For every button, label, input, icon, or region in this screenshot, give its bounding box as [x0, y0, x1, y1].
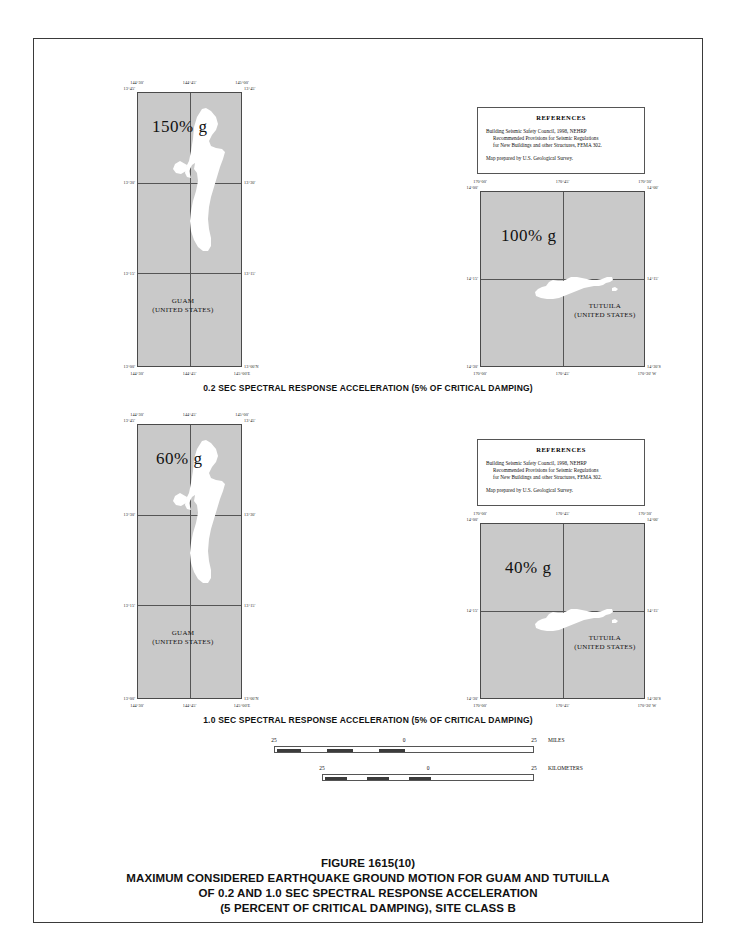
tick-top-right: 145°00' — [226, 80, 258, 85]
tick-right-14-00: 14°00' — [647, 517, 658, 522]
references-line-3: for New Buildings and other Structures, … — [486, 474, 636, 481]
scale-km-left-number: 25 — [312, 765, 332, 771]
scale-segment — [409, 777, 431, 780]
tick-right-13-45: 13°45' — [244, 86, 255, 91]
tick-bottom-center: 144°45' — [174, 703, 206, 708]
scale-section: Scale 1:1,000,000 25 0 25 MILES 25 0 25 … — [34, 746, 702, 762]
tick-right-14-30: 14°30'S — [647, 364, 661, 369]
tick-right-13-30: 13°30' — [244, 180, 255, 185]
scale-miles-right-number: 25 — [524, 737, 544, 743]
references-line-1: Building Seismic Safety Council, 1998, N… — [486, 128, 636, 135]
tick-left-13-00: 13°00' — [103, 696, 135, 701]
acceleration-value-tutuila-1-0: 40% g — [505, 558, 551, 578]
scale-segment — [325, 777, 347, 780]
map-background: 100% g TUTUILA (UNITED STATES) — [480, 191, 645, 367]
figure-title: FIGURE 1615(10) MAXIMUM CONSIDERED EARTH… — [34, 856, 702, 916]
tick-right-14-30: 14°30'S — [647, 696, 661, 701]
tick-left-14-15: 14°15' — [446, 276, 478, 281]
tick-bottom-right: 170°30' W — [629, 371, 665, 376]
acceleration-value-tutuila-0-2: 100% g — [501, 226, 556, 246]
references-box-bottom: REFERENCES Building Seismic Safety Counc… — [477, 439, 645, 506]
scale-km-unit: KILOMETERS — [548, 765, 583, 771]
scale-segment — [379, 749, 405, 752]
tick-left-14-30: 14°30' — [446, 696, 478, 701]
tick-left-14-15: 14°15' — [446, 608, 478, 613]
tick-left-13-15: 13°15' — [103, 603, 135, 608]
tick-left-13-45: 13°45' — [103, 86, 135, 91]
scale-segment — [327, 749, 353, 752]
references-line-2: Recommended Provisions for Seismic Regul… — [486, 467, 636, 474]
place-country: (UNITED STATES) — [148, 638, 218, 647]
map-background: 150% g GUAM (UNITED STATES) — [137, 92, 242, 367]
island-tutuila-shape — [533, 607, 619, 635]
tick-right-13-15: 13°15' — [244, 271, 255, 276]
place-country: (UNITED STATES) — [569, 311, 641, 320]
tick-left-13-45: 13°45' — [103, 418, 135, 423]
scale-km-center-number: 0 — [418, 765, 438, 771]
references-heading: REFERENCES — [486, 114, 636, 121]
scale-bar-kilometers: 25 0 25 KILOMETERS — [322, 774, 534, 792]
tick-bottom-right: 145°00'E — [226, 371, 258, 376]
caption-1-0-sec: 1.0 SEC SPECTRAL RESPONSE ACCELERATION (… — [34, 715, 702, 725]
references-line-1: Building Seismic Safety Council, 1998, N… — [486, 460, 636, 467]
tick-bottom-left: 144°30' — [121, 703, 153, 708]
references-line-3: for New Buildings and other Structures, … — [486, 142, 636, 149]
tick-bottom-left: 170°00' — [464, 703, 496, 708]
tick-right-14-00: 14°00' — [647, 185, 658, 190]
tick-top-right: 170°30' — [629, 179, 661, 184]
scale-miles-center-number: 0 — [394, 737, 414, 743]
place-label-tutuila-0-2: TUTUILA (UNITED STATES) — [569, 302, 641, 320]
scale-miles-track — [274, 746, 534, 753]
tick-left-13-30: 13°30' — [103, 180, 135, 185]
tick-left-13-00: 13°00' — [103, 364, 135, 369]
place-label-tutuila-1-0: TUTUILA (UNITED STATES) — [569, 634, 641, 652]
tick-right-13-00: 13°00'N — [244, 364, 259, 369]
tick-top-right: 170°30' — [629, 511, 661, 516]
tick-left-13-30: 13°30' — [103, 512, 135, 517]
map-background: 40% g TUTUILA (UNITED STATES) — [480, 523, 645, 699]
map-guam-0-2-sec: 150% g GUAM (UNITED STATES) 144°30' 144°… — [137, 92, 242, 367]
map-background: 60% g GUAM (UNITED STATES) — [137, 424, 242, 699]
tick-right-14-15: 14°15' — [647, 608, 658, 613]
scale-segment — [277, 749, 301, 752]
island-tutuila-shape — [533, 275, 619, 303]
place-name: GUAM — [148, 629, 218, 638]
tick-left-13-15: 13°15' — [103, 271, 135, 276]
tick-right-14-15: 14°15' — [647, 276, 658, 281]
tick-left-14-00: 14°00' — [446, 517, 478, 522]
figure-title-line-2: MAXIMUM CONSIDERED EARTHQUAKE GROUND MOT… — [34, 871, 702, 886]
tick-top-center: 170°45' — [547, 179, 579, 184]
tick-bottom-left: 144°30' — [121, 371, 153, 376]
tick-top-left: 144°30' — [121, 412, 153, 417]
tick-top-center: 144°45' — [174, 80, 206, 85]
place-name: GUAM — [148, 297, 218, 306]
map-tutuila-1-0-sec: 40% g TUTUILA (UNITED STATES) 170°00' 17… — [480, 523, 645, 699]
figure-title-line-1: FIGURE 1615(10) — [34, 856, 702, 871]
tick-bottom-right: 145°00'E — [226, 703, 258, 708]
scale-segment — [367, 777, 389, 780]
scale-km-right-number: 25 — [524, 765, 544, 771]
acceleration-value-guam-0-2: 150% g — [152, 117, 207, 137]
references-line-4: Map prepared by U.S. Geological Survey. — [486, 155, 636, 162]
references-box-top: REFERENCES Building Seismic Safety Counc… — [477, 107, 645, 174]
map-guam-1-0-sec: 60% g GUAM (UNITED STATES) 144°30' 144°4… — [137, 424, 242, 699]
caption-0-2-sec: 0.2 SEC SPECTRAL RESPONSE ACCELERATION (… — [34, 383, 702, 393]
tick-bottom-right: 170°30' W — [629, 703, 665, 708]
tick-top-left: 170°00' — [464, 511, 496, 516]
place-country: (UNITED STATES) — [569, 643, 641, 652]
references-line-2: Recommended Provisions for Seismic Regul… — [486, 135, 636, 142]
tick-right-13-30: 13°30' — [244, 512, 255, 517]
place-label-guam-1-0: GUAM (UNITED STATES) — [148, 629, 218, 647]
scale-km-track — [322, 774, 534, 781]
place-name: TUTUILA — [569, 634, 641, 643]
page-border: 150% g GUAM (UNITED STATES) 144°30' 144°… — [33, 38, 703, 923]
tick-bottom-center: 170°45' — [547, 371, 579, 376]
scale-miles-left-number: 25 — [264, 737, 284, 743]
tick-right-13-15: 13°15' — [244, 603, 255, 608]
tick-right-13-00: 13°00'N — [244, 696, 259, 701]
place-country: (UNITED STATES) — [148, 306, 218, 315]
scale-miles-unit: MILES — [548, 737, 565, 743]
tick-bottom-left: 170°00' — [464, 371, 496, 376]
tick-left-14-00: 14°00' — [446, 185, 478, 190]
tick-left-14-30: 14°30' — [446, 364, 478, 369]
